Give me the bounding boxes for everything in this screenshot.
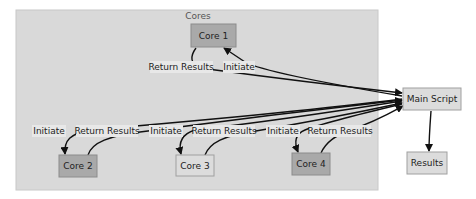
node-core-2[interactable]: Core 2 — [59, 155, 97, 177]
edge-label-core1-return: Return Results — [148, 62, 214, 72]
node-main-script[interactable]: Main Script — [403, 88, 461, 110]
edge-label-core3-initiate: Initiate — [150, 126, 182, 136]
cluster-label: Cores — [185, 11, 211, 21]
node-label: Core 2 — [63, 161, 92, 171]
node-label: Main Script — [407, 94, 458, 104]
node-results[interactable]: Results — [407, 152, 447, 174]
node-label: Core 4 — [296, 159, 326, 169]
edge-label-core1-initiate: Initiate — [223, 62, 255, 72]
edge-label-core4-initiate: Initiate — [267, 126, 299, 136]
node-core-4[interactable]: Core 4 — [292, 153, 330, 175]
edge-label-core4-return: Return Results — [307, 126, 373, 136]
edge-label-core2-initiate: Initiate — [33, 126, 65, 136]
node-label: Core 3 — [180, 161, 209, 171]
node-core-1[interactable]: Core 1 — [191, 24, 236, 47]
edge-main-results — [429, 111, 431, 151]
node-label: Results — [411, 158, 444, 168]
node-core-3[interactable]: Core 3 — [176, 155, 214, 176]
diagram-canvas: Cores Return Results Initiate Initiate R… — [0, 0, 476, 199]
edge-label-core3-return: Return Results — [191, 126, 257, 136]
node-label: Core 1 — [199, 31, 228, 41]
edge-label-core2-return: Return Results — [74, 126, 140, 136]
